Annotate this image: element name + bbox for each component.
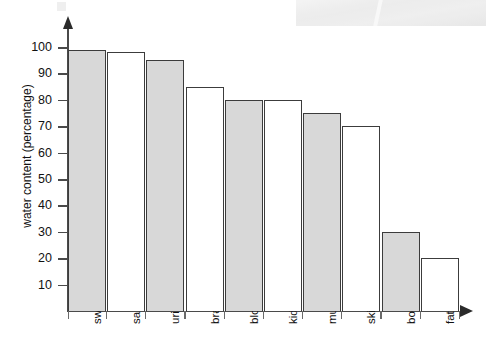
- bar-brain: [186, 87, 224, 311]
- bar-urine: [146, 60, 184, 311]
- bar-bone: [382, 232, 420, 311]
- bar-blood: [225, 100, 263, 311]
- x-axis-tick: [459, 311, 460, 319]
- x-axis-tick: [106, 311, 107, 319]
- x-axis-tick: [184, 311, 185, 319]
- bar-skin: [342, 126, 380, 311]
- x-axis-tick: [145, 311, 146, 319]
- bar-fat: [421, 258, 459, 311]
- bar-kidneys: [264, 100, 302, 311]
- x-axis-tick: [68, 311, 69, 319]
- x-axis-label-fat: fat: [445, 311, 457, 324]
- bar-saliva: [107, 52, 145, 311]
- plot-area: water content (percentage) 1020304050607…: [0, 0, 494, 364]
- x-axis-tick: [341, 311, 342, 319]
- x-axis-tick: [380, 311, 381, 319]
- x-axis-tick: [224, 311, 225, 319]
- x-axis-tick: [263, 311, 264, 319]
- x-axis-tick: [302, 311, 303, 319]
- bar-sweat: [68, 50, 106, 311]
- water-content-bar-chart: water content (percentage) 1020304050607…: [0, 0, 494, 364]
- x-axis-tick: [420, 311, 421, 319]
- bar-muscle: [303, 113, 341, 311]
- bar-series: [0, 0, 494, 364]
